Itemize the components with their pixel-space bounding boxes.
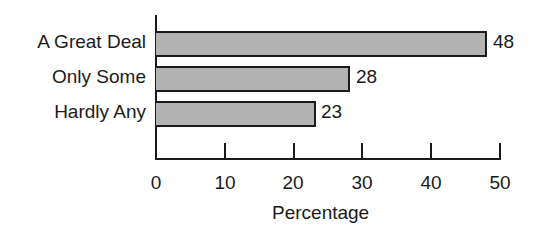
- x-axis-title: Percentage: [272, 202, 369, 224]
- x-axis: [155, 158, 501, 160]
- bar-value-label: 48: [493, 31, 514, 53]
- x-tick: [430, 143, 432, 159]
- x-tick: [499, 143, 501, 159]
- x-tick-label: 50: [480, 172, 520, 194]
- x-tick: [224, 143, 226, 159]
- x-tick: [293, 143, 295, 159]
- bar-value-label: 28: [356, 66, 377, 88]
- bar-value-label: 23: [321, 101, 342, 123]
- category-label: A Great Deal: [37, 31, 146, 53]
- x-tick-label: 0: [136, 172, 176, 194]
- x-tick-label: 30: [342, 172, 382, 194]
- x-tick-label: 40: [411, 172, 451, 194]
- category-label: Hardly Any: [54, 101, 146, 123]
- x-tick-label: 10: [205, 172, 245, 194]
- bar-chart: A Great Deal Only Some Hardly Any 48 28 …: [0, 0, 543, 235]
- category-label: Only Some: [52, 66, 146, 88]
- bar-hardly-any: [156, 101, 316, 127]
- x-tick: [361, 143, 363, 159]
- bar-a-great-deal: [156, 31, 487, 57]
- bar-only-some: [156, 66, 350, 92]
- x-tick-label: 20: [273, 172, 313, 194]
